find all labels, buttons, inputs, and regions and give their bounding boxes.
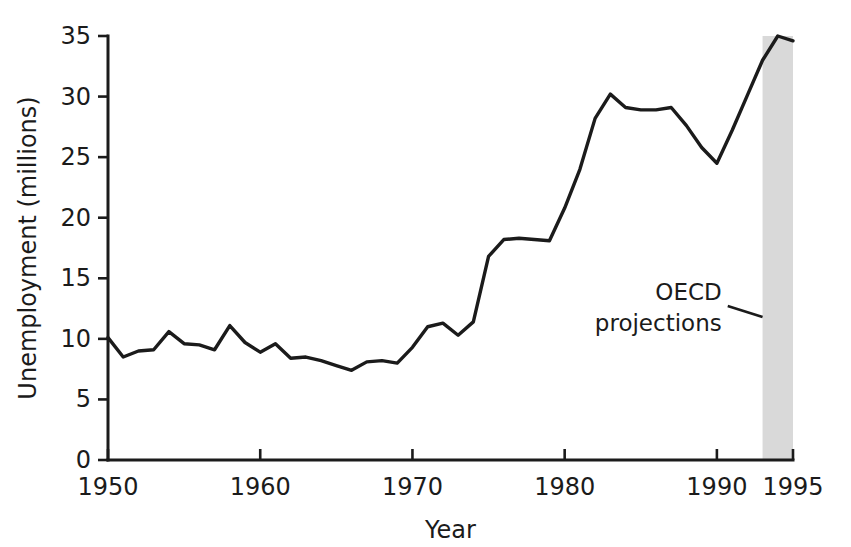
x-tick-label: 1950 bbox=[77, 473, 138, 501]
x-tick-label: 1960 bbox=[230, 473, 291, 501]
oecd-projection-band bbox=[763, 36, 793, 460]
y-tick-label: 35 bbox=[60, 22, 91, 50]
chart-background bbox=[0, 0, 851, 547]
y-tick-label: 5 bbox=[76, 385, 91, 413]
y-tick-label: 15 bbox=[60, 264, 91, 292]
y-tick-label: 20 bbox=[60, 204, 91, 232]
y-tick-label: 30 bbox=[60, 83, 91, 111]
oecd-projections-annotation-line2: projections bbox=[595, 310, 722, 336]
x-tick-label: 1980 bbox=[534, 473, 595, 501]
x-tick-label: 1995 bbox=[762, 473, 823, 501]
x-tick-label: 1990 bbox=[686, 473, 747, 501]
y-tick-label: 10 bbox=[60, 325, 91, 353]
chart-figure: 05101520253035 195019601970198019901995 … bbox=[0, 0, 851, 547]
x-tick-label: 1970 bbox=[382, 473, 443, 501]
y-tick-label: 25 bbox=[60, 143, 91, 171]
oecd-projections-annotation-line1: OECD bbox=[655, 279, 721, 305]
y-axis-title: Unemployment (millions) bbox=[14, 96, 42, 399]
projection-shading-rect bbox=[763, 36, 793, 460]
unemployment-line-chart: 05101520253035 195019601970198019901995 … bbox=[0, 0, 851, 547]
y-tick-label: 0 bbox=[76, 446, 91, 474]
x-axis-title: Year bbox=[424, 516, 476, 544]
